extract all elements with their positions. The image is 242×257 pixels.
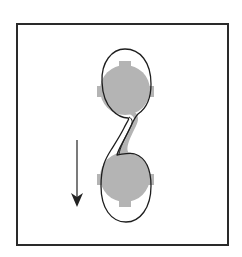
upper-lobe	[97, 61, 154, 157]
arrow-down-icon	[71, 140, 83, 207]
upper-lobe-top-notch	[119, 61, 131, 69]
frame-border	[17, 24, 228, 245]
diagram-canvas	[0, 0, 242, 257]
lower-lobe-bottom-notch	[119, 199, 131, 207]
